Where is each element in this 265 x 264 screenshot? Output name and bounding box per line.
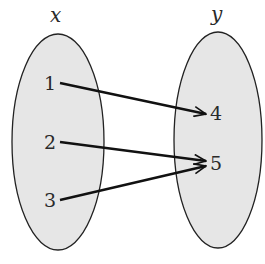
codomain-set-oval	[174, 32, 262, 248]
domain-element-2: 2	[44, 131, 56, 153]
domain-set-label: x	[50, 3, 61, 27]
domain-set-oval	[12, 34, 104, 250]
domain-element-3: 3	[44, 189, 56, 211]
mapping-diagram: x y 1 2 3 4 5	[0, 0, 265, 264]
codomain-element-5: 5	[210, 152, 222, 174]
codomain-element-4: 4	[210, 102, 222, 124]
domain-element-1: 1	[44, 72, 56, 94]
codomain-set-label: y	[210, 2, 223, 26]
